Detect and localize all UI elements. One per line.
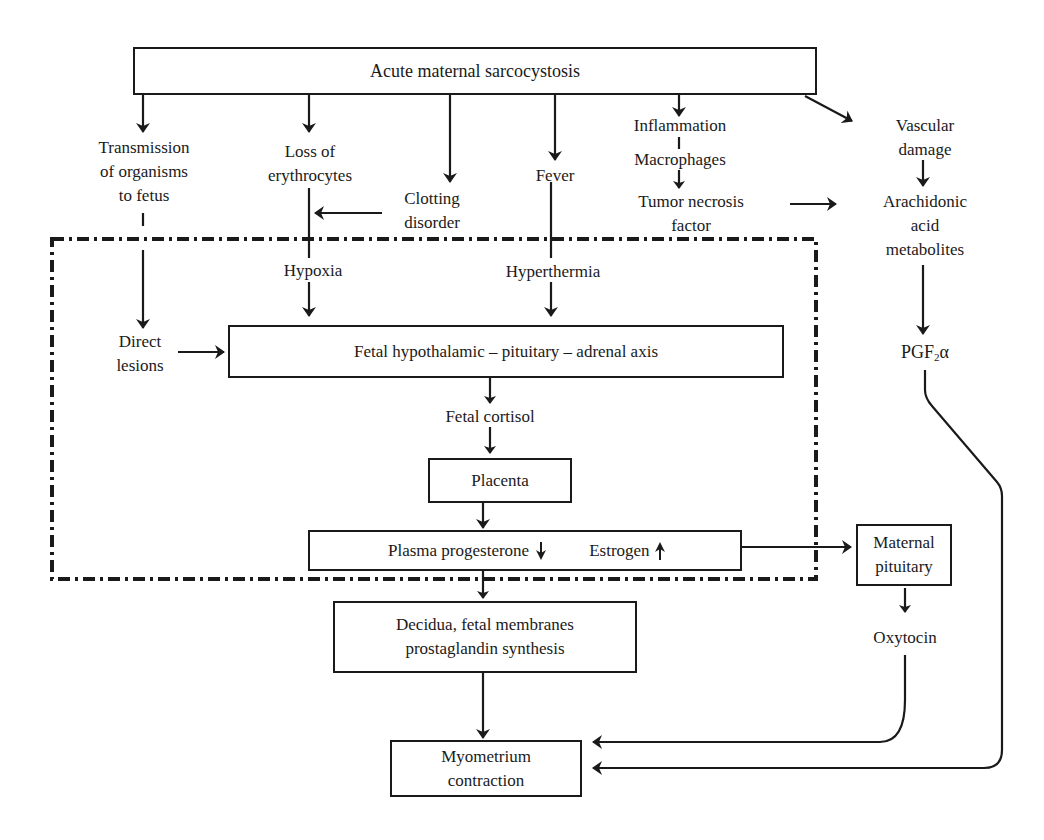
node-label: erythrocytes — [250, 164, 370, 188]
node-fever: Fever — [515, 164, 595, 188]
node-label: lesions — [105, 354, 175, 378]
node-label: to fetus — [66, 184, 222, 208]
node-label: Maternal — [873, 531, 934, 555]
node-inflammation: Inflammation — [610, 114, 750, 138]
node-clotting-disorder: Clotting disorder — [382, 187, 482, 235]
node-label: acid — [860, 214, 990, 238]
decrease-arrow-icon — [535, 541, 547, 561]
node-label: Acute maternal sarcocystosis — [370, 59, 580, 83]
node-macrophages: Macrophages — [610, 148, 750, 172]
node-label: Tumor necrosis — [616, 190, 766, 214]
node-fetal-hpa-axis: Fetal hypothalamic – pituitary – adrenal… — [228, 325, 784, 378]
node-label: Decidua, fetal membranes — [396, 613, 574, 637]
node-label: Oxytocin — [873, 628, 936, 647]
node-label: Fetal cortisol — [445, 407, 534, 426]
node-tumor-necrosis-factor: Tumor necrosis factor — [616, 190, 766, 238]
node-progesterone-estrogen: Plasma progesterone Estrogen — [308, 530, 742, 571]
node-label: prostaglandin synthesis — [405, 637, 564, 661]
node-hypoxia: Hypoxia — [268, 259, 358, 283]
node-label: Placenta — [471, 469, 529, 493]
node-label: of organisms — [66, 160, 222, 184]
node-transmission: Transmission of organisms to fetus — [66, 136, 222, 208]
node-decidua-prostaglandin-synthesis: Decidua, fetal membranes prostaglandin s… — [333, 601, 637, 673]
node-label: Plasma progesterone — [388, 539, 529, 563]
node-myometrium-contraction: Myometrium contraction — [390, 740, 582, 797]
node-fetal-cortisol: Fetal cortisol — [420, 405, 560, 429]
node-label: pituitary — [875, 555, 933, 579]
node-arachidonic-acid-metabolites: Arachidonic acid metabolites — [860, 190, 990, 262]
node-label: Fever — [536, 166, 575, 185]
node-maternal-pituitary: Maternal pituitary — [856, 524, 952, 586]
node-label: Transmission — [66, 136, 222, 160]
node-label: Inflammation — [634, 116, 727, 135]
node-loss-of-erythrocytes: Loss of erythrocytes — [250, 140, 370, 188]
node-label: PGF — [901, 342, 934, 362]
node-acute-maternal-sarcocystosis: Acute maternal sarcocystosis — [133, 47, 817, 95]
node-label: Fetal hypothalamic – pituitary – adrenal… — [354, 340, 658, 364]
node-label: factor — [616, 214, 766, 238]
node-label: contraction — [448, 769, 524, 793]
edge-oxytocin-myometrium — [593, 655, 905, 742]
alpha-symbol: α — [940, 342, 949, 362]
node-label: Hyperthermia — [506, 262, 600, 281]
node-label: Loss of — [250, 140, 370, 164]
node-pgf2-alpha: PGF2α — [880, 340, 970, 369]
node-label: damage — [870, 138, 980, 162]
node-placenta: Placenta — [428, 458, 572, 503]
node-label: Direct — [105, 330, 175, 354]
node-label: Hypoxia — [284, 261, 343, 280]
node-label: Arachidonic — [860, 190, 990, 214]
node-label: Myometrium — [441, 745, 531, 769]
node-label: Vascular — [870, 114, 980, 138]
node-hyperthermia: Hyperthermia — [488, 260, 618, 284]
node-label: Macrophages — [634, 150, 726, 169]
node-label: disorder — [382, 211, 482, 235]
node-label: metabolites — [860, 238, 990, 262]
node-oxytocin: Oxytocin — [855, 626, 955, 650]
node-direct-lesions: Direct lesions — [105, 330, 175, 378]
edge-root-vascular — [805, 96, 852, 121]
node-vascular-damage: Vascular damage — [870, 114, 980, 162]
increase-arrow-icon — [654, 541, 666, 561]
node-label: Estrogen — [589, 539, 649, 563]
node-label: Clotting — [382, 187, 482, 211]
